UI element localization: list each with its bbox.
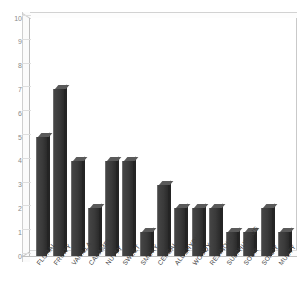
y-axis-tick-mark — [22, 15, 31, 16]
y-axis-tick-mark — [22, 86, 31, 87]
bar-chart: 109876543210 FLORALFRUITYVANILLACARAMELN… — [0, 0, 305, 305]
y-axis-tick-mark — [22, 39, 31, 40]
y-axis-tick-mark — [22, 110, 31, 111]
y-axis-tick-mark — [22, 205, 31, 206]
x-axis-label: SOAPY — [260, 244, 280, 267]
y-axis-tick-mark — [22, 182, 31, 183]
x-axis-label: MUSTY — [277, 243, 297, 266]
x-axis-labels: FLORALFRUITYVANILLACARAMELNUTTYSWEETSMOK… — [0, 0, 305, 305]
x-axis-label: SOUR — [242, 247, 260, 267]
y-axis-tick-mark — [22, 253, 31, 254]
y-axis-tick-mark — [22, 229, 31, 230]
y-axis-tick-mark — [22, 63, 31, 64]
y-axis-tick-mark — [22, 134, 31, 135]
x-axis-label: SWEET — [121, 243, 141, 266]
y-axis-tick-mark — [22, 158, 31, 159]
